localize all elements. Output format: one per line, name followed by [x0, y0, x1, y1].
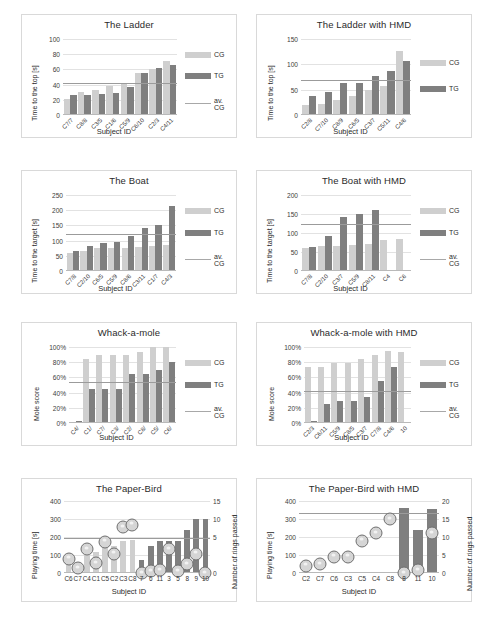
legend-swatch-tg [420, 230, 446, 236]
y-tick: 100 [287, 61, 298, 68]
plot-area: 100% 80% 60% 40% 20% 0% C4/ C1/ C7/ [69, 347, 176, 423]
y-axis-label: Time to the target [s] [31, 219, 38, 283]
plot-area: 250 200 150 100 50 0 C7/8 C2/10 C6/5 [66, 195, 176, 271]
bar-group [371, 347, 384, 423]
legend: CG TG [420, 45, 472, 115]
bar-series [301, 195, 411, 271]
x-axis-label: Subject ID [52, 433, 181, 442]
y-tick-right: 5 [213, 534, 217, 541]
y-tick: 300 [50, 516, 61, 523]
bar-group [94, 195, 108, 271]
x-axis-label: Subject ID [285, 127, 416, 136]
legend-label-tg: TG [214, 72, 224, 79]
y-axis-label: Time to the top [s] [31, 65, 38, 121]
x-tick-labels: C7/8 C2/10 C3/7 C5/9 C8/11 C4 C6 [301, 272, 411, 273]
y-tick: 200 [50, 534, 61, 541]
legend-label-cg: CG [449, 359, 460, 366]
legend-swatch-avg [185, 103, 211, 105]
bar-group [109, 347, 122, 423]
bar-group [163, 39, 177, 115]
y-tick: 200 [52, 207, 63, 214]
x-axis-label: Subject ID [287, 587, 431, 596]
y-tick: 0% [56, 420, 66, 427]
legend-label-avg-2: CG [449, 412, 460, 419]
bar-group [317, 195, 333, 271]
bar-group [107, 195, 121, 271]
y-tick: 50 [56, 252, 63, 259]
data-marker [89, 557, 102, 570]
legend-swatch-tg [420, 382, 446, 388]
y-axis-label: Playing time [s] [31, 532, 38, 579]
legend-label-avg-1: av. [214, 253, 225, 260]
x-tick: C1 [91, 575, 100, 582]
bar-group [358, 347, 371, 423]
y-tick: 40 [53, 81, 60, 88]
y-tick: 60% [288, 374, 301, 381]
legend: CG TG av.CG [420, 353, 472, 423]
legend-label-cg: CG [449, 59, 460, 66]
x-tick: 6 [146, 575, 155, 582]
y-tick: 0 [56, 112, 60, 119]
x-tick: C6 [64, 575, 73, 582]
y-tick-right: 10 [213, 516, 220, 523]
bar-group [163, 347, 176, 423]
x-tick: 10 [201, 575, 210, 582]
chart-panel-whack: Whack-a-mole Mole score 100% 80% 60% 40%… [21, 322, 237, 446]
bar-group [134, 39, 148, 115]
y-tick-right: 15 [213, 498, 220, 505]
x-tick: C4 [82, 575, 91, 582]
x-axis [66, 270, 176, 271]
bar-group [123, 347, 136, 423]
x-tick-labels: C7/7 C8/8 C3/5 C1/6 C5/9 C6/10 C2/3 C4/1… [63, 116, 177, 117]
y-tick: 50 [291, 249, 298, 256]
y-tick: 100 [49, 36, 60, 43]
y-tick: 60 [53, 66, 60, 73]
y-tick: 250 [52, 192, 63, 199]
legend-label-tg: TG [449, 381, 459, 388]
legend-label-avg-2: CG [214, 104, 225, 111]
bar-group [106, 39, 120, 115]
y-tick: 50 [291, 86, 298, 93]
x-axis [304, 422, 411, 423]
legend: CG TG av.CG [185, 45, 237, 115]
legend-label-avg-2: CG [449, 260, 460, 267]
legend-label-avg-2: CG [214, 412, 225, 419]
bar-group [162, 195, 176, 271]
y-tick-right: 20 [442, 498, 449, 505]
data-marker [300, 559, 313, 572]
y-tick: 0 [292, 570, 296, 577]
data-marker [426, 527, 439, 540]
chart-title: Whack-a-mole with HMD [257, 327, 471, 338]
bar-group [66, 195, 80, 271]
x-tick: C7 [313, 575, 327, 582]
data-marker [126, 518, 139, 531]
legend-swatch-cg [420, 208, 446, 214]
chart-title: Whack-a-mole [22, 327, 236, 338]
average-line [301, 224, 411, 225]
chart-title: The Paper-Bird with HMD [257, 483, 471, 494]
plot-area: 100% 80% 60% 40% 20% 0% C2/3 C6/11 C5/9 [304, 347, 411, 423]
x-tick-labels: C2/3 C6/11 C5/9 C8/5 C3/7 C7/8 C4/6 10 [304, 424, 411, 425]
legend-label-tg: TG [449, 229, 459, 236]
average-line [304, 391, 411, 392]
y-axis-label-right: Number of rings passed [466, 517, 473, 591]
y-tick: 0 [294, 268, 298, 275]
bar-group [96, 347, 109, 423]
chart-panel-bird: The Paper-Bird Playing time [s] Number o… [21, 478, 237, 602]
legend-label-cg: CG [214, 359, 225, 366]
y-tick: 100 [285, 552, 296, 559]
chart-panel-ladder-hmd: The Ladder with HMD Time to the top [s] … [256, 14, 472, 138]
bar-group [317, 347, 330, 423]
data-marker [108, 547, 121, 560]
bar-group [332, 195, 348, 271]
y-tick: 150 [287, 211, 298, 218]
average-line [63, 83, 177, 84]
y-tick-right: 5 [442, 552, 446, 559]
data-marker [99, 535, 112, 548]
bar-series [66, 195, 176, 271]
legend: CG TG av.CG [185, 201, 237, 271]
x-tick-labels: C2 C7 C6 C3 C5 C4 C8 8 11 10 [299, 575, 439, 582]
legend-label-avg-2: CG [214, 260, 225, 267]
bar-group [92, 39, 106, 115]
x-axis [69, 422, 176, 423]
